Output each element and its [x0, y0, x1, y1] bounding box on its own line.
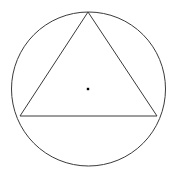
inscribed-triangle — [20, 12, 157, 116]
circle-center-dot — [87, 88, 89, 90]
figure-canvas — [0, 0, 175, 174]
geometry-diagram — [0, 0, 175, 174]
